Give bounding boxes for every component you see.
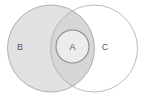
set-label-c: C bbox=[102, 42, 109, 52]
set-label-b: B bbox=[17, 42, 23, 52]
set-label-a: A bbox=[69, 42, 75, 52]
venn-diagram-canvas: B A C bbox=[0, 0, 145, 96]
venn-diagram: B A C bbox=[0, 0, 145, 96]
